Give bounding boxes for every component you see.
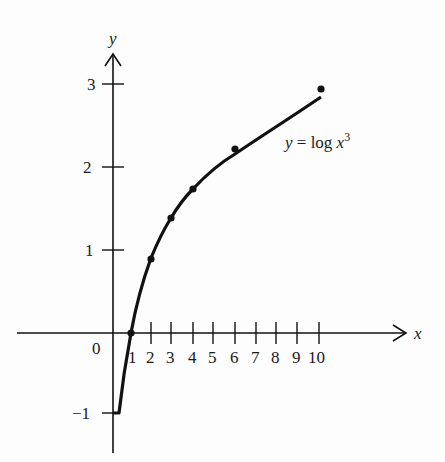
chart: y x 0 3 2 1 −1 1 2 3 4 5 6 7 8 9 10 y = … [0, 0, 445, 462]
x-tick-labels: 1 2 3 4 5 6 7 8 9 10 [128, 348, 325, 367]
svg-text:9: 9 [292, 348, 301, 367]
y-tick-label: 3 [87, 75, 96, 94]
equation-label: y = log x3 [283, 130, 350, 152]
svg-text:10: 10 [308, 348, 325, 367]
svg-text:7: 7 [251, 348, 260, 367]
svg-text:3: 3 [166, 348, 175, 367]
y-tick-label: 2 [83, 158, 92, 177]
svg-text:4: 4 [188, 348, 197, 367]
y-axis-label: y [107, 29, 117, 48]
x-axis-label: x [413, 324, 422, 343]
svg-text:6: 6 [230, 348, 239, 367]
svg-text:5: 5 [208, 348, 217, 367]
svg-text:8: 8 [271, 348, 280, 367]
data-points [127, 85, 324, 336]
svg-text:2: 2 [146, 348, 155, 367]
y-tick-label: 1 [85, 241, 94, 260]
y-tick-label: −1 [72, 404, 90, 423]
origin-label: 0 [92, 339, 101, 358]
